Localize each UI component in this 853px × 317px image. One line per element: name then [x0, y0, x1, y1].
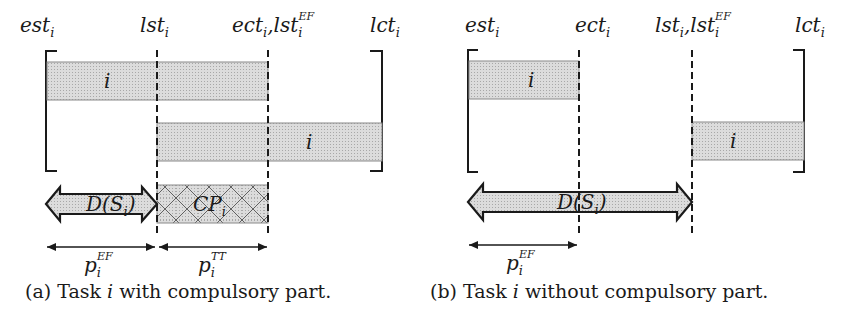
- caption-a: (a) Task i with compulsory part.: [25, 280, 331, 302]
- label-ect-lstEF: ecti,lstiEF: [232, 10, 315, 40]
- label-est: esti: [20, 13, 54, 40]
- label-lct: lcti: [370, 13, 400, 40]
- task-bar-latest: [692, 122, 804, 160]
- compulsory-part-label: CPi: [193, 192, 226, 219]
- duration-label-pEF: piEF: [84, 250, 113, 280]
- label-est: esti: [465, 13, 499, 40]
- duration-label-pEF: piEF: [506, 248, 535, 278]
- task-bar-earliest-label: i: [528, 68, 534, 92]
- label-lct: lcti: [795, 13, 825, 40]
- caption-b: (b) Task i without compulsory part.: [430, 280, 768, 302]
- diagram-canvas: esti lsti ecti,lstiEF lcti i i CPi D(Si)…: [0, 0, 853, 317]
- label-ect: ecti: [575, 13, 610, 40]
- task-bar-latest: [157, 123, 382, 161]
- task-bar-earliest: [469, 61, 579, 99]
- task-bar-latest-label: i: [730, 129, 736, 153]
- domain-arrow-label: D(Si): [556, 190, 607, 217]
- panel-a: esti lsti ecti,lstiEF lcti i i CPi D(Si)…: [20, 10, 400, 302]
- label-lst: lsti: [140, 13, 169, 40]
- duration-label-pTT: piTT: [198, 250, 228, 280]
- task-bar-earliest-label: i: [104, 69, 110, 93]
- label-lst-lstEF: lsti,lstiEF: [655, 10, 731, 40]
- panel-b: esti ecti lsti,lstiEF lcti i i D(Si) piE…: [430, 10, 825, 302]
- task-bar-latest-label: i: [306, 130, 312, 154]
- domain-arrow-label: D(Si): [85, 192, 136, 219]
